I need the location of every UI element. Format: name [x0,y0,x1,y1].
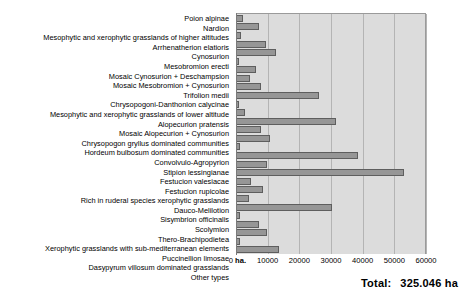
plot-area [236,13,426,254]
bar-row [236,220,425,229]
bar-row [236,203,425,212]
category-label: Arrhenatherion elatioris [0,43,232,53]
category-label: Hordeum bulbosum dominated communities [0,148,232,158]
category-label: Nardion [0,24,232,34]
category-label: Mesophytic and xerophytic grasslands of … [0,110,232,120]
category-label: Convolvulo-Agropyrion [0,158,232,168]
category-label: Mesobromion erecti [0,62,232,72]
category-label: Xerophytic grasslands with sub-mediterra… [0,244,232,254]
bar [236,83,261,90]
bar-row [236,91,425,100]
bar [236,169,404,176]
bar-row [236,143,425,152]
bar-row [236,31,425,40]
category-label: Scolymion [0,225,232,235]
category-label: Rich in ruderal species xerophytic grass… [0,196,232,206]
category-label: Cynosurion [0,52,232,62]
category-label: Dauco-Melilotion [0,206,232,216]
category-label: Alopecurion pratensis [0,120,232,130]
bar-row [236,117,425,126]
value-tick-label: 40000 [352,256,373,266]
category-label: Chrysopogoni-Danthonion calycinae [0,100,232,110]
category-label: Mosaic Mesobromion + Cynosurion [0,81,232,91]
bar [236,204,332,211]
bar-series [236,14,425,254]
bar-row [236,48,425,57]
bar [236,186,263,193]
bar-row [236,100,425,109]
value-tick-label: 50000 [384,256,405,266]
bar-row [236,211,425,220]
category-label: Trifolion medii [0,91,232,101]
bar-row [236,14,425,23]
bar [236,49,276,56]
total-footer: Total:325.046 ha [361,277,458,289]
value-tick-label: 60000 [415,256,436,266]
bar-row [236,23,425,32]
category-label: Sisymbrion officinalis [0,215,232,225]
bar-row [236,126,425,135]
bar-row [236,151,425,160]
bar-row [236,177,425,186]
category-label: Stipion lessingianae [0,168,232,178]
value-axis-line [236,13,237,255]
bar [236,109,245,116]
category-label: Festucion rupicolae [0,187,232,197]
bar-row [236,246,425,255]
bar [236,41,266,48]
bar [236,246,279,253]
bar [236,152,358,159]
bar-row [236,228,425,237]
value-tick-label: 20000 [289,256,310,266]
bar-row [236,74,425,83]
category-label: Other types [0,273,232,283]
category-label: Chrysopogon gryllus dominated communitie… [0,139,232,149]
category-label: Puccinellion limosae [0,254,232,264]
bar [236,92,319,99]
bar [236,229,267,236]
bar [236,66,256,73]
value-tick-label: 10000 [257,256,278,266]
value-tick-label: 30000 [320,256,341,266]
bar-row [236,194,425,203]
category-label: Mesophytic and xerophytic grasslands of … [0,33,232,43]
category-label: Mosaic Cynosurion + Deschampsion [0,72,232,82]
total-value: 325.046 ha [400,277,458,289]
category-label: Mosaic Alopecurion + Cynosurion [0,129,232,139]
bar [236,178,251,185]
bar-row [236,65,425,74]
bar [236,195,249,202]
bar-row [236,160,425,169]
gridline [426,14,427,254]
bar-row [236,108,425,117]
bar [236,161,267,168]
bar-row [236,57,425,66]
bar-row [236,237,425,246]
bar-row [236,83,425,92]
bar [236,135,270,142]
bar [236,118,336,125]
bar [236,23,259,30]
bar [236,221,259,228]
category-label: Poion alpinae [0,14,232,24]
bar-row [236,134,425,143]
bar-row [236,40,425,49]
category-label: Thero-Brachipodietea [0,235,232,245]
value-axis-ticks: 0 ha.100002000030000400005000060000 [236,256,426,268]
total-label: Total: [361,277,391,289]
chart-figure: Poion alpinaeNardionMesophytic and xerop… [0,0,466,295]
category-label: Festucion valesiacae [0,177,232,187]
value-tick-label: 0 ha. [229,256,246,266]
category-label: Dasypyrum villosum dominated grasslands [0,263,232,273]
bar-row [236,186,425,195]
bar [236,75,250,82]
bar-row [236,168,425,177]
bar [236,126,261,133]
category-axis-labels: Poion alpinaeNardionMesophytic and xerop… [0,14,232,283]
